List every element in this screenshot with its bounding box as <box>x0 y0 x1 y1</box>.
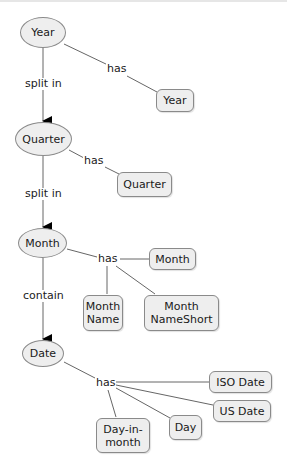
concept-quarter[interactable]: Quarter <box>15 122 72 156</box>
attribute-quarter-label: Quarter <box>123 178 166 191</box>
concept-quarter-label: Quarter <box>22 133 65 146</box>
attribute-day-in-month-label: Day-in- month <box>103 423 143 449</box>
concept-year-label: Year <box>31 26 54 39</box>
attribute-month-name[interactable]: Month Name <box>83 295 123 331</box>
concept-date-label: Date <box>30 347 56 360</box>
attribute-day-in-month[interactable]: Day-in- month <box>96 418 150 453</box>
attribute-month-name-short[interactable]: Month NameShort <box>144 295 219 331</box>
attribute-us-date-label: US Date <box>220 405 265 418</box>
link-label-quarter-month: split in <box>24 188 63 200</box>
attribute-day-label: Day <box>175 421 197 434</box>
attribute-iso-date-label: ISO Date <box>216 376 265 389</box>
attribute-month[interactable]: Month <box>149 248 196 270</box>
link-label-year-has: has <box>106 63 127 75</box>
attribute-month-name-short-label: Month NameShort <box>151 300 213 326</box>
concept-date[interactable]: Date <box>22 340 64 367</box>
attribute-day[interactable]: Day <box>169 415 202 440</box>
concept-month[interactable]: Month <box>18 228 67 258</box>
attribute-month-label: Month <box>155 253 189 266</box>
link-label-date-has: has <box>95 377 116 389</box>
attribute-quarter[interactable]: Quarter <box>117 172 172 197</box>
link-label-month-has: has <box>97 253 118 265</box>
attribute-year-label: Year <box>163 94 186 107</box>
attribute-year[interactable]: Year <box>156 89 194 112</box>
concept-year[interactable]: Year <box>20 17 66 48</box>
attribute-month-name-label: Month Name <box>86 300 120 326</box>
attribute-us-date[interactable]: US Date <box>213 400 271 422</box>
concept-month-label: Month <box>25 237 59 250</box>
link-label-month-date: contain <box>22 290 65 302</box>
link-label-year-quarter: split in <box>24 78 63 90</box>
link-label-quarter-has: has <box>83 155 104 167</box>
attribute-iso-date[interactable]: ISO Date <box>209 371 272 393</box>
